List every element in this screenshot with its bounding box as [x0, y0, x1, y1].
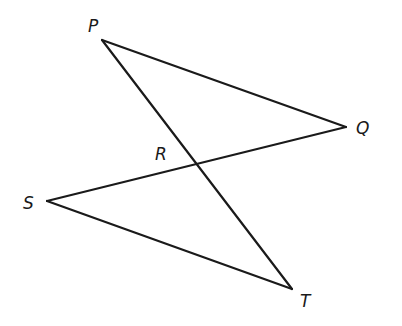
geometry-diagram: P Q R S T	[0, 0, 402, 326]
label-s: S	[23, 193, 34, 213]
label-t: T	[300, 291, 312, 311]
segment-st	[47, 201, 292, 289]
segment-qs	[47, 127, 346, 201]
segment-pq	[102, 40, 346, 127]
label-r: R	[155, 144, 167, 164]
label-q: Q	[356, 118, 369, 138]
label-p: P	[88, 16, 99, 36]
